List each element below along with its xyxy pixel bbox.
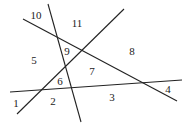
region-label: 10 <box>31 10 42 21</box>
region-label: 3 <box>109 92 115 103</box>
line-b <box>23 19 177 101</box>
region-label: 8 <box>129 46 135 57</box>
region-label: 6 <box>57 76 63 87</box>
region-label: 7 <box>89 66 95 77</box>
region-label: 5 <box>31 55 37 66</box>
line-arrangement-diagram: 1 2 3 4 5 6 7 8 9 10 11 <box>0 0 191 123</box>
region-label: 4 <box>165 84 171 95</box>
lines-layer <box>0 0 191 123</box>
region-label: 1 <box>13 98 19 109</box>
region-label: 2 <box>50 96 56 107</box>
region-label: 11 <box>72 18 83 29</box>
region-label: 9 <box>64 46 70 57</box>
